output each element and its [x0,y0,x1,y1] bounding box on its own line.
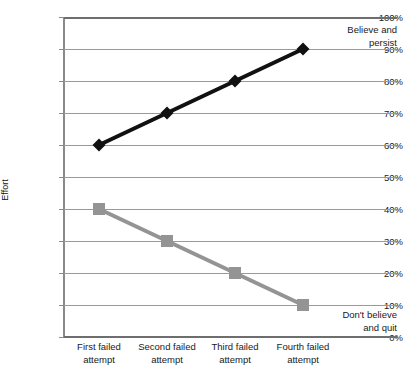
annotation-quit-line2: and quit [247,322,397,335]
series-dont-believe-and-quit [93,203,309,311]
effort-line-chart: Effort 100%90%80%70%60%50%40%30%20%10%0%… [0,0,409,389]
x-label-line1: Fourth failed [261,341,345,354]
series-line [99,49,303,145]
annotation-quit-line1: Don't believe [247,309,397,322]
series-believe-and-persist [93,43,310,152]
x-axis-category-label: Fourth failedattempt [261,341,345,366]
annotation-dont-believe-and-quit: Don't believe and quit [247,309,397,334]
data-point-marker [161,107,174,120]
data-point-marker [161,235,173,247]
data-point-marker [229,75,242,88]
annotation-believe-and-persist: Believe and persist [247,24,397,49]
annotation-believe-line1: Believe and [247,24,397,37]
data-point-marker [93,139,106,152]
data-point-marker [229,267,241,279]
annotation-believe-line2: persist [247,37,397,50]
data-point-marker [93,203,105,215]
x-label-line2: attempt [261,354,345,367]
series-line [99,209,303,305]
